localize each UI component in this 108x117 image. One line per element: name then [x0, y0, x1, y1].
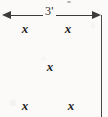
boundary-line-right [101, 15, 102, 117]
plant-mark-top-right: x [65, 22, 72, 35]
scan-speck [67, 1, 71, 3]
plant-mark-bottom-right: x [68, 99, 75, 112]
spacing-diagram: 3' x x x x x [0, 0, 108, 117]
arrowhead-left-icon [2, 11, 11, 19]
dimension-label: 3' [43, 5, 56, 17]
plant-mark-center: x [47, 60, 54, 73]
plant-mark-top-left: x [22, 22, 29, 35]
plant-mark-bottom-left: x [22, 99, 29, 112]
arrowhead-right-icon [92, 11, 101, 19]
